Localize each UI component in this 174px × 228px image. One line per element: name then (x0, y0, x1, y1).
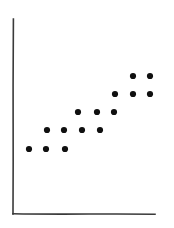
plot-canvas (0, 0, 174, 228)
data-point (62, 146, 68, 152)
data-point (112, 91, 118, 97)
scatter-plot-figure (0, 0, 174, 228)
data-point (97, 127, 103, 133)
data-point (43, 146, 49, 152)
data-point (130, 91, 136, 97)
data-point (111, 109, 117, 115)
data-point (94, 109, 100, 115)
data-point (79, 127, 85, 133)
data-points-group (26, 73, 153, 152)
data-point (61, 127, 67, 133)
data-point (147, 73, 153, 79)
axes-group (13, 19, 155, 214)
data-point (75, 109, 81, 115)
data-point (130, 73, 136, 79)
data-point (147, 91, 153, 97)
data-point (26, 146, 32, 152)
data-point (44, 127, 50, 133)
